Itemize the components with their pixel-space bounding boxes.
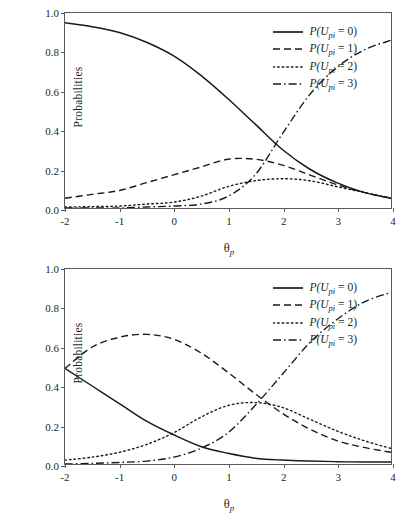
legend-item: P(Upi = 3) <box>273 76 357 94</box>
x-tick-label: 0 <box>172 215 178 227</box>
y-tick-mark <box>61 131 65 132</box>
y-tick-mark <box>61 13 65 14</box>
legend-label: P(Upi = 2) <box>309 60 357 75</box>
legend-label-prefix: P(U <box>309 281 328 293</box>
legend-item: P(Upi = 0) <box>273 279 357 297</box>
x-tick-label: 1 <box>226 215 232 227</box>
x-tick-label: 3 <box>336 215 342 227</box>
legend-item: P(Upi = 1) <box>273 41 357 59</box>
y-tick-label: 0.6 <box>45 342 59 354</box>
x-axis-label-top: θp <box>65 241 393 257</box>
legend-label-prefix: P(U <box>309 316 328 328</box>
legend-top: P(Upi = 0)P(Upi = 1)P(Upi = 2)P(Upi = 3) <box>273 23 357 93</box>
x-tick-label: 4 <box>390 215 396 227</box>
y-tick-mark <box>61 92 65 93</box>
chart-panel-bottom: Probabilities θp 0.00.20.40.60.81.0-2-10… <box>0 256 412 508</box>
x-tick-label: -2 <box>60 471 69 483</box>
legend-bottom: P(Upi = 0)P(Upi = 1)P(Upi = 2)P(Upi = 3) <box>273 279 357 349</box>
y-tick-mark <box>61 171 65 172</box>
x-tick-mark <box>229 208 230 212</box>
legend-line-sample <box>273 335 303 345</box>
chart-panel-top: Probabilities θp 0.00.20.40.60.81.0-2-10… <box>0 0 412 252</box>
y-tick-label: 1.0 <box>45 263 59 275</box>
legend-line-sample <box>273 62 303 72</box>
legend-label-prefix: P(U <box>309 77 328 89</box>
legend-label-suffix: = 0) <box>335 25 357 37</box>
series-line-2 <box>65 403 391 461</box>
x-tick-label: 3 <box>336 471 342 483</box>
legend-label: P(Upi = 0) <box>309 281 357 296</box>
legend-label: P(Upi = 3) <box>309 333 357 348</box>
x-tick-mark <box>338 464 339 468</box>
y-tick-mark <box>61 308 65 309</box>
series-line-0 <box>65 368 391 462</box>
legend-item: P(Upi = 2) <box>273 58 357 76</box>
x-tick-mark <box>174 464 175 468</box>
x-tick-mark <box>229 464 230 468</box>
x-tick-label: -1 <box>115 471 124 483</box>
legend-label-prefix: P(U <box>309 298 328 310</box>
x-tick-mark <box>65 208 66 212</box>
x-axis-label-bottom: θp <box>65 497 393 513</box>
legend-item: P(Upi = 3) <box>273 332 357 350</box>
legend-label-prefix: P(U <box>309 25 328 37</box>
legend-label: P(Upi = 3) <box>309 77 357 92</box>
legend-label-prefix: P(U <box>309 60 328 72</box>
x-axis-label-subscript-bottom: p <box>230 503 235 513</box>
legend-item: P(Upi = 1) <box>273 297 357 315</box>
legend-label-suffix: = 0) <box>335 281 357 293</box>
y-tick-label: 0.6 <box>45 86 59 98</box>
legend-line-sample <box>273 283 303 293</box>
legend-label-suffix: = 3) <box>335 333 357 345</box>
legend-label-suffix: = 2) <box>335 60 357 72</box>
y-tick-mark <box>61 52 65 53</box>
legend-label-suffix: = 3) <box>335 77 357 89</box>
legend-label: P(Upi = 1) <box>309 42 357 57</box>
x-tick-label: -1 <box>115 215 124 227</box>
x-tick-mark <box>284 208 285 212</box>
x-tick-mark <box>120 464 121 468</box>
legend-line-sample <box>273 318 303 328</box>
x-tick-mark <box>393 464 394 468</box>
y-tick-label: 0.4 <box>45 381 59 393</box>
legend-label: P(Upi = 0) <box>309 25 357 40</box>
legend-label-suffix: = 1) <box>335 42 357 54</box>
legend-label-prefix: P(U <box>309 42 328 54</box>
x-tick-label: 4 <box>390 471 396 483</box>
y-tick-label: 0.8 <box>45 302 59 314</box>
y-tick-mark <box>61 269 65 270</box>
y-tick-mark <box>61 427 65 428</box>
y-tick-label: 0.4 <box>45 125 59 137</box>
y-tick-label: 0.2 <box>45 165 59 177</box>
x-tick-label: 1 <box>226 471 232 483</box>
x-tick-mark <box>65 464 66 468</box>
legend-item: P(Upi = 0) <box>273 23 357 41</box>
x-tick-mark <box>338 208 339 212</box>
y-tick-mark <box>61 387 65 388</box>
series-line-2 <box>65 179 391 207</box>
x-tick-mark <box>284 464 285 468</box>
x-tick-mark <box>120 208 121 212</box>
y-tick-label: 0.8 <box>45 46 59 58</box>
legend-label-suffix: = 2) <box>335 316 357 328</box>
legend-label-suffix: = 1) <box>335 298 357 310</box>
x-tick-label: 2 <box>281 471 287 483</box>
legend-label-prefix: P(U <box>309 333 328 345</box>
legend-line-sample <box>273 27 303 37</box>
y-tick-label: 1.0 <box>45 7 59 19</box>
legend-label: P(Upi = 2) <box>309 316 357 331</box>
y-tick-mark <box>61 348 65 349</box>
series-line-1 <box>65 334 391 452</box>
x-tick-mark <box>174 208 175 212</box>
legend-line-sample <box>273 79 303 89</box>
y-tick-label: 0.0 <box>45 204 59 216</box>
x-tick-label: -2 <box>60 215 69 227</box>
legend-line-sample <box>273 44 303 54</box>
x-tick-label: 0 <box>172 471 178 483</box>
x-tick-label: 2 <box>281 215 287 227</box>
legend-line-sample <box>273 300 303 310</box>
legend-item: P(Upi = 2) <box>273 314 357 332</box>
series-line-1 <box>65 158 391 198</box>
plot-area-top: Probabilities θp 0.00.20.40.60.81.0-2-10… <box>64 12 392 209</box>
y-tick-label: 0.2 <box>45 421 59 433</box>
